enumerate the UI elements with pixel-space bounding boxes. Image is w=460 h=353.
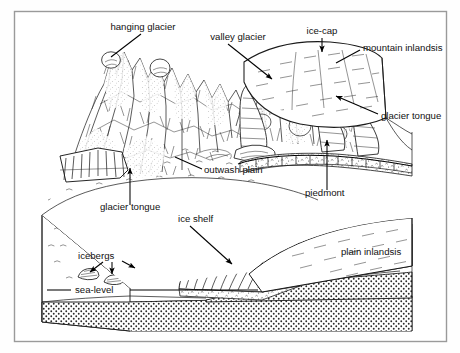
figure-root: hanging glaciervalley glacierice-capmoun… [0,0,460,353]
label-valley-glacier: valley glacier [210,31,266,42]
label-glacier-tongue-right: glacier tongue [381,110,441,121]
label-ice-cap: ice-cap [307,25,338,36]
label-outwash-plain: outwash plain [204,164,263,175]
label-hanging-glacier: hanging glacier [110,21,176,32]
hanging-glacier-cirque [102,52,121,68]
label-ice-shelf: ice shelf [178,213,214,224]
label-glacier-tongue-left: glacier tongue [100,201,160,212]
label-icebergs: icebergs [78,250,114,261]
cirque-secondary [150,59,170,77]
label-plain-inlandsis: plain inlandsis [341,246,401,257]
label-mountain-inlandsis: mountain inlandsis [363,42,443,53]
label-piedmont: piedmont [305,187,345,198]
label-sea-level: sea-level [75,284,113,295]
glacial-landforms-diagram: hanging glaciervalley glacierice-capmoun… [0,0,460,353]
